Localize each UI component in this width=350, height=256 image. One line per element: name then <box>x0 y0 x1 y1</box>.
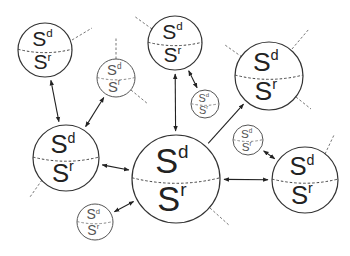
label-s-d: Sd <box>253 47 279 77</box>
dangling-link-e <box>292 29 309 49</box>
sphere-g: SdSr <box>132 135 220 223</box>
dangling-link-e <box>225 45 242 57</box>
sphere-i: SdSr <box>272 147 338 213</box>
sphere-e: SdSr <box>235 42 303 110</box>
arrow-h-i <box>264 151 275 159</box>
dangling-link-c <box>134 16 152 29</box>
label-s-d: Sd <box>155 141 188 179</box>
dangling-link-g <box>210 208 230 226</box>
label-s-d: Sd <box>198 92 209 104</box>
dangling-link-f <box>30 180 42 197</box>
label-s-r: Sr <box>52 158 74 187</box>
dangling-link-b <box>131 90 148 104</box>
label-s-d: Sd <box>87 206 101 222</box>
label-s-r: Sr <box>87 222 99 238</box>
label-s-d: Sd <box>289 152 314 181</box>
sphere-j: SdSr <box>77 204 113 240</box>
arrow-j-g <box>114 202 133 212</box>
arrow-c-d <box>189 71 197 88</box>
sphere-h: SdSr <box>233 125 263 155</box>
dangling-link-i <box>325 135 334 154</box>
label-s-r: Sr <box>291 180 313 209</box>
sphere-c: SdSr <box>148 16 202 70</box>
arrow-g-e <box>208 104 243 143</box>
label-s-d: Sd <box>107 62 122 78</box>
label-s-r: Sr <box>199 104 208 116</box>
dangling-link-e <box>296 97 311 109</box>
label-s-d: Sd <box>50 130 75 159</box>
arrow-a-f <box>51 80 59 121</box>
sphere-nodes: SdSrSdSrSdSrSdSrSdSrSdSrSdSrSdSrSdSrSdSr <box>18 16 338 240</box>
label-s-r: Sr <box>163 43 181 67</box>
sphere-d: SdSr <box>191 90 219 118</box>
label-s-d: Sd <box>241 127 253 140</box>
label-s-r: Sr <box>157 179 186 217</box>
label-s-d: Sd <box>162 19 183 43</box>
arrow-b-f <box>86 98 104 127</box>
label-s-r: Sr <box>33 50 51 74</box>
sphere-f: SdSr <box>33 125 99 191</box>
sphere-network-diagram: SdSrSdSrSdSrSdSrSdSrSdSrSdSrSdSrSdSrSdSr <box>0 0 350 256</box>
label-s-d: Sd <box>32 26 53 50</box>
label-s-r: Sr <box>242 140 253 153</box>
dangling-link-a <box>72 28 92 40</box>
arrow-f-g <box>102 165 129 170</box>
sphere-a: SdSr <box>18 23 72 77</box>
label-s-r: Sr <box>108 78 121 94</box>
sphere-b: SdSr <box>97 59 135 97</box>
label-s-r: Sr <box>255 76 278 106</box>
